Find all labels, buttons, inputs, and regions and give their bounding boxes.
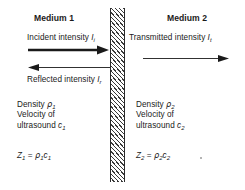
medium-2-heading: Medium 2 <box>167 13 207 23</box>
scan-speck <box>200 157 202 159</box>
medium-1-velocity-text: ultrasound <box>17 121 58 130</box>
medium-2-velocity-line2: ultrasound c2 <box>136 121 185 131</box>
incident-intensity-text: Incident intensity <box>27 33 91 42</box>
medium-2-density-text: Density <box>136 100 166 109</box>
medium-2-impedance-c-subscript: 2 <box>167 155 170 161</box>
medium-1-velocity-subscript: 1 <box>62 125 65 131</box>
transmitted-intensity-label: Transmitted intensity It <box>129 33 212 43</box>
medium-2-impedance-equals: = <box>144 151 153 160</box>
transmitted-intensity-text: Transmitted intensity <box>129 33 208 42</box>
medium-2-velocity-text: ultrasound <box>136 121 177 130</box>
medium-1-velocity-line1: Velocity of <box>17 110 55 120</box>
medium-1-impedance-equals: = <box>25 151 34 160</box>
reflected-intensity-label: Reflected intensity Ir <box>27 75 102 85</box>
reflected-intensity-subscript: r <box>100 79 102 85</box>
medium-1-impedance-equation: Z1 = ρ1c1 <box>17 150 51 161</box>
diagram-canvas: Medium 1 Incident intensity Ii Reflected… <box>0 0 245 190</box>
medium-2-impedance-subscript: 2 <box>141 155 144 161</box>
medium-1-impedance-subscript: 1 <box>22 155 25 161</box>
incident-arrow <box>28 45 110 55</box>
interface-boundary <box>110 8 125 182</box>
incident-intensity-subscript: i <box>94 37 95 43</box>
medium-1-impedance-rho-subscript: 1 <box>40 155 43 161</box>
medium-1-impedance-c-subscript: 1 <box>48 155 51 161</box>
reflected-intensity-text: Reflected intensity <box>27 75 97 84</box>
medium-2-impedance-rho-subscript: 2 <box>159 155 162 161</box>
medium-1-density-label: Density ρ1 <box>17 99 56 110</box>
transmitted-intensity-subscript: t <box>210 37 212 43</box>
medium-1-velocity-line2: ultrasound c1 <box>17 121 66 131</box>
medium-2-density-label: Density ρ2 <box>136 99 175 110</box>
medium-2-impedance-equation: Z2 = ρ2c2 <box>136 150 170 161</box>
reflected-arrow <box>28 63 110 72</box>
incident-intensity-label: Incident intensity Ii <box>27 33 95 43</box>
medium-2-velocity-line1: Velocity of <box>136 110 174 120</box>
medium-1-heading: Medium 1 <box>34 13 74 23</box>
medium-1-density-text: Density <box>17 100 47 109</box>
medium-2-velocity-subscript: 2 <box>181 125 184 131</box>
transmitted-arrow <box>143 54 229 63</box>
